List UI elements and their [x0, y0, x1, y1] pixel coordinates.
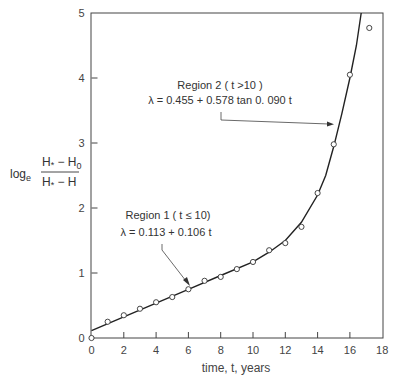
data-point: [105, 319, 110, 324]
y-tick-label: 3: [78, 137, 84, 149]
data-point: [154, 300, 159, 305]
x-tick-label: 6: [185, 344, 191, 356]
x-tick-label: 8: [218, 344, 224, 356]
data-point: [347, 72, 352, 77]
x-tick-label: 10: [247, 344, 259, 356]
y-tick-label: 5: [78, 7, 84, 19]
x-tick-label: 0: [88, 344, 94, 356]
data-point: [315, 190, 320, 195]
svg-text:H* − H0: H* − H0: [42, 155, 82, 171]
fitted-curve: [92, 13, 362, 331]
data-point: [250, 259, 255, 264]
region1-equation: λ = 0.113 + 0.106 t: [121, 226, 212, 238]
svg-text:H* − H: H* − H: [42, 175, 77, 190]
x-axis-label: time, t, years: [202, 361, 271, 375]
y-axis-ticks: 012345: [78, 7, 97, 344]
region2-arrow: [221, 112, 329, 124]
x-tick-label: 12: [279, 344, 291, 356]
region2-title: Region 2 ( t >10 ): [177, 79, 262, 91]
data-point: [121, 313, 126, 318]
data-point: [137, 306, 142, 311]
data-point: [202, 278, 207, 283]
data-point: [267, 248, 272, 253]
data-point: [186, 287, 191, 292]
data-point: [283, 241, 288, 246]
data-point: [331, 142, 336, 147]
y-tick-label: 0: [78, 332, 84, 344]
y-axis-label: loge H* − H0 H* − H: [10, 155, 82, 190]
data-point: [218, 274, 223, 279]
x-tick-label: 18: [376, 344, 388, 356]
chart: 024681012141618 012345 Region 2 ( t >10 …: [0, 0, 397, 383]
data-point: [89, 335, 94, 340]
region2-equation: λ = 0.455 + 0.578 tan 0. 090 t: [148, 94, 292, 106]
y-tick-label: 4: [78, 72, 84, 84]
region1-arrow: [162, 244, 186, 281]
y-tick-label: 1: [78, 267, 84, 279]
data-point: [234, 267, 239, 272]
x-tick-label: 2: [121, 344, 127, 356]
x-axis-ticks: 024681012141618: [88, 332, 388, 356]
x-tick-label: 16: [344, 344, 356, 356]
plot-frame: [91, 13, 383, 338]
data-point: [170, 294, 175, 299]
y-tick-label: 2: [78, 202, 84, 214]
region2-arrowhead: [327, 122, 334, 127]
data-point: [367, 25, 372, 30]
data-point: [299, 224, 304, 229]
data-points: [89, 25, 372, 340]
x-tick-label: 14: [311, 344, 323, 356]
svg-text:loge: loge: [10, 167, 31, 183]
region1-title: Region 1 ( t ≤ 10): [126, 209, 211, 221]
x-tick-label: 4: [153, 344, 159, 356]
